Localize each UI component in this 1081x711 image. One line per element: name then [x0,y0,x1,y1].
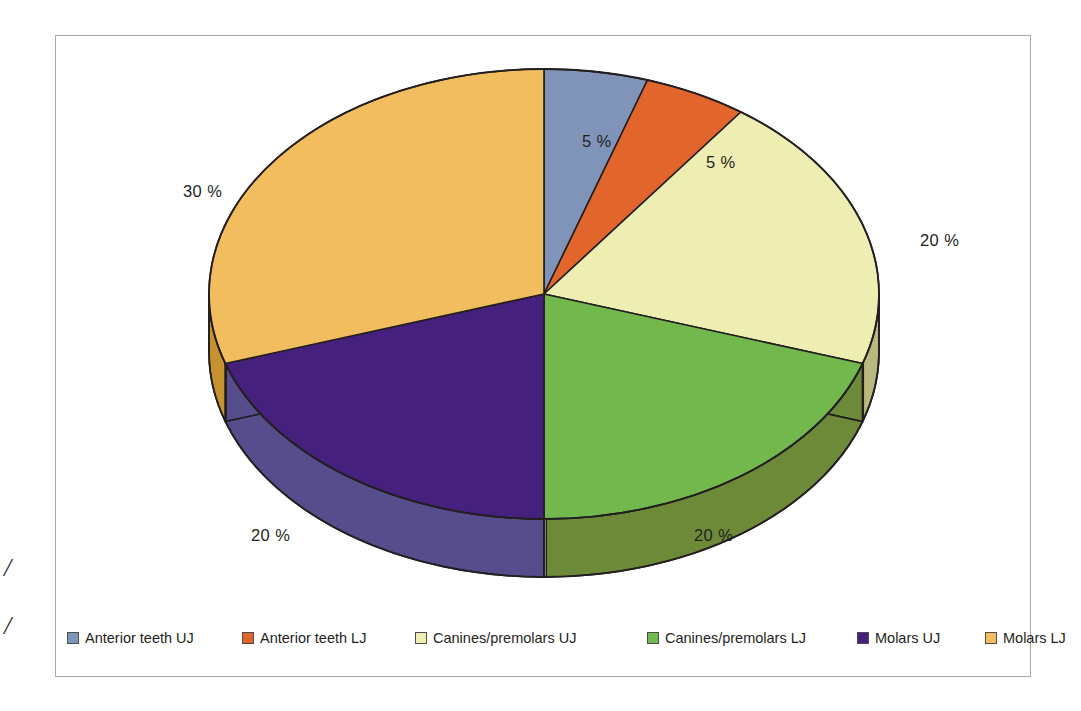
slice-label-anterior-uj: 5 % [582,132,612,151]
slice-label-anterior-lj: 5 % [706,153,736,172]
legend-swatch-icon [415,632,427,644]
legend-swatch-icon [242,632,254,644]
slice-label-molars-lj: 30 % [183,182,222,201]
legend-item[interactable]: Molars LJ [985,631,1066,646]
chart-frame: 5 % 5 % 20 % 20 % 20 % 30 % Anterior tee… [55,35,1031,677]
chart-legend: Anterior teeth UJAnterior teeth LJCanine… [67,626,1022,650]
legend-item-label: Canines/premolars UJ [433,631,576,646]
slice-label-molars-uj: 20 % [251,526,290,545]
legend-item[interactable]: Canines/premolars UJ [415,631,576,646]
pie-chart: 5 % 5 % 20 % 20 % 20 % 30 % [56,36,1030,676]
legend-item-label: Anterior teeth LJ [260,631,366,646]
page-margin-mark-upper: / [4,553,11,583]
legend-swatch-icon [857,632,869,644]
legend-item-label: Molars LJ [1003,631,1066,646]
legend-item-label: Canines/premolars LJ [665,631,806,646]
legend-item[interactable]: Molars UJ [857,631,940,646]
legend-item-label: Anterior teeth UJ [85,631,194,646]
legend-item[interactable]: Anterior teeth UJ [67,631,194,646]
page-margin-mark-lower: / [4,611,11,641]
legend-swatch-icon [647,632,659,644]
legend-item-label: Molars UJ [875,631,940,646]
pie-chart-svg [56,36,1032,636]
slice-label-canines-lj: 20 % [694,526,733,545]
slice-label-canines-uj: 20 % [920,231,959,250]
legend-swatch-icon [985,632,997,644]
legend-swatch-icon [67,632,79,644]
legend-item[interactable]: Canines/premolars LJ [647,631,806,646]
legend-item[interactable]: Anterior teeth LJ [242,631,366,646]
